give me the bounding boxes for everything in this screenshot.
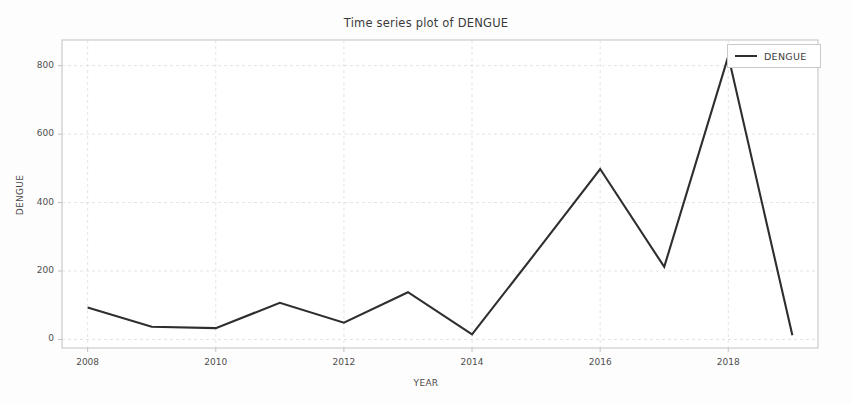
legend-line-swatch xyxy=(735,55,757,57)
x-tick-label: 2014 xyxy=(447,357,497,367)
y-tick-label: 600 xyxy=(14,128,54,138)
chart-legend: DENGUE xyxy=(727,44,821,68)
legend-label-dengue: DENGUE xyxy=(764,51,807,62)
x-axis-label: YEAR xyxy=(0,378,852,388)
x-tick-label: 2018 xyxy=(703,357,753,367)
x-tick-label: 2010 xyxy=(191,357,241,367)
y-tick-label: 800 xyxy=(14,60,54,70)
plot-frame xyxy=(62,40,818,348)
y-axis-label: DENGUE xyxy=(15,155,25,235)
chart-plot-area xyxy=(0,0,852,404)
y-tick-label: 200 xyxy=(14,265,54,275)
figure-canvas: Time series plot of DENGUE 0200400600800… xyxy=(0,0,852,404)
x-tick-label: 2016 xyxy=(575,357,625,367)
x-tick-label: 2012 xyxy=(319,357,369,367)
y-tick-label: 0 xyxy=(14,333,54,343)
x-tick-label: 2008 xyxy=(63,357,113,367)
